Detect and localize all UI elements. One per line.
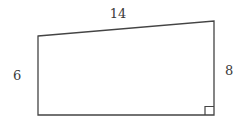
trapezoid-outline [38,21,214,115]
right-side-length-label: 8 [225,64,233,77]
left-side-length-label: 6 [13,69,21,82]
right-angle-marker-icon [205,107,214,116]
geometry-figure: 14 6 8 [0,0,244,127]
top-side-length-label: 14 [0,7,240,20]
